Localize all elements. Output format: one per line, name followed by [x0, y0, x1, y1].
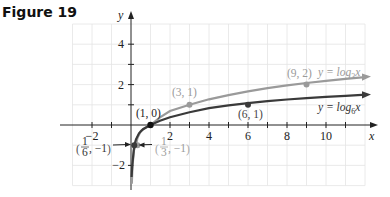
x-tick-label: 6: [245, 129, 251, 143]
svg-text:, −1: , −1: [168, 142, 186, 155]
point-6-1: [245, 102, 251, 108]
x-axis-label: x: [368, 129, 375, 143]
label-9-2: (9, 2): [287, 67, 312, 80]
svg-text:): ): [107, 143, 111, 156]
label-log6: y = log6x: [317, 101, 361, 116]
label-1-0: (1, 0): [136, 107, 161, 120]
log-chart: −2 2 4 6 8 10 x 4 2 −2 y: [0, 0, 390, 197]
y-axis-arrow-icon: [128, 11, 134, 19]
point-sixth-neg1: [131, 142, 137, 148]
label-third-neg1: ( 1 3 , −1 ): [139, 135, 191, 158]
y-axis: 4 2 −2 y: [112, 8, 134, 190]
x-axis-arrow-icon: [370, 122, 378, 128]
x-axis: −2 2 4 6 8 10 x: [60, 122, 378, 143]
x-tick-label: 2: [167, 129, 173, 143]
point-9-2: [304, 82, 310, 88]
curve-arrow-icon: [362, 74, 371, 81]
y-tick-label: 4: [118, 37, 124, 51]
y-tick-label: −2: [112, 158, 125, 172]
y-axis-label: y: [117, 8, 124, 22]
arrow-icon: [125, 142, 131, 147]
curve-arrow-icon: [362, 91, 371, 98]
point-3-1: [187, 102, 193, 108]
svg-text:6: 6: [82, 146, 88, 158]
y-tick-label: 2: [118, 78, 124, 92]
x-tick-label: 4: [206, 129, 212, 143]
label-6-1: (6, 1): [238, 108, 263, 121]
svg-text:): ): [186, 143, 190, 156]
svg-text:3: 3: [161, 146, 167, 158]
label-3-1: (3, 1): [172, 86, 197, 99]
svg-text:, −1: , −1: [89, 142, 107, 155]
label-sixth-neg1: ( 1 6 , −1 ): [76, 135, 131, 158]
x-tick-label: 8: [284, 129, 290, 143]
svg-text:(: (: [155, 143, 159, 156]
x-tick-label: 10: [320, 129, 332, 143]
point-1-0: [147, 122, 153, 128]
svg-text:(: (: [76, 143, 80, 156]
